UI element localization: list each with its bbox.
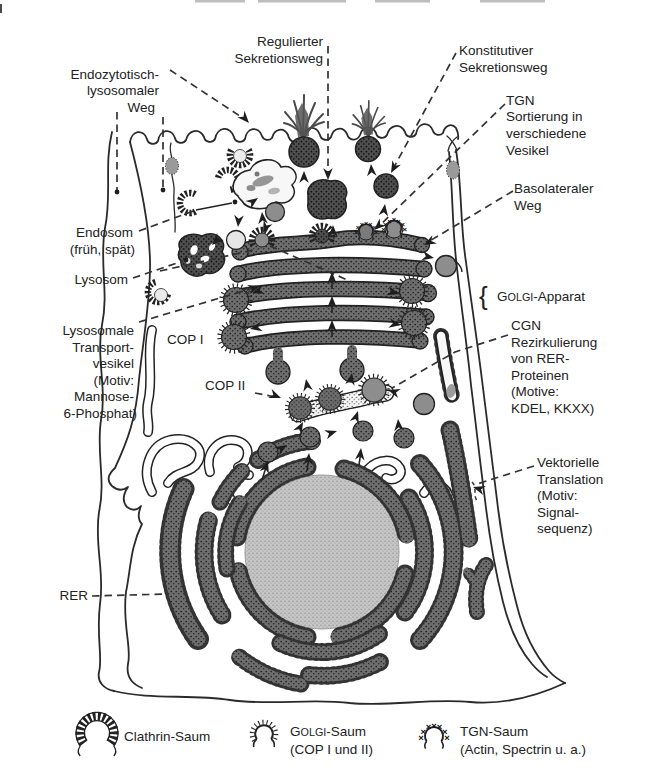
label-line: Proteinen <box>511 368 569 383</box>
smooth-vesicle <box>414 394 435 415</box>
label-golgi-apparatus: GOLGI-Apparat <box>497 289 585 304</box>
label-cop2: COP II <box>205 378 245 393</box>
label-line: TGN <box>506 93 535 108</box>
label-line: Endozytotisch- <box>70 67 159 82</box>
secretory-granules <box>284 95 398 219</box>
membrane-bead <box>447 161 460 179</box>
label-line: Transport- <box>72 340 134 355</box>
label-vectorial-translation: Vektorielle Translation (Motiv: Signal- … <box>537 455 603 536</box>
label-line: (Motive: <box>511 384 559 399</box>
label-line: 6-Phosphat) <box>63 406 137 421</box>
label-line: KDEL, KKXX) <box>511 401 594 416</box>
legend-golgi-label: GOLGI-Saum <box>290 724 366 739</box>
label-line: Mannose- <box>74 389 134 404</box>
label-basolateral-pathway: Basolateraler Weg <box>514 181 594 213</box>
label-line: Sortierung in <box>506 109 583 124</box>
golgi-apparatus <box>226 238 437 385</box>
regulated-granule <box>308 180 347 219</box>
label-lysosomal-transport-vesicles: Lysosomale Transport- vesikel (Motiv: Ma… <box>62 323 137 421</box>
label-regulated-pathway: Regulierter Sekretionsweg <box>234 34 323 66</box>
label-line: Regulierter <box>257 34 324 49</box>
legend-clathrin-label: Clathrin-Saum <box>124 729 210 744</box>
label-line: sequenz) <box>537 521 593 536</box>
cell-diagram-svg: × × × × × × × <box>0 0 663 783</box>
label-endocytic-pathway: Endozytotisch- lysosomaler Weg <box>70 67 159 115</box>
label-line: Weg <box>514 198 542 213</box>
figure-secretory-pathways: × × × × × × × <box>0 0 663 783</box>
label-line: Signal- <box>537 505 579 520</box>
light-vesicle <box>227 231 246 250</box>
label-line: (Motiv: <box>94 373 135 388</box>
label-tgn-sorting: TGN Sortierung in verschiedene Vesikel <box>506 93 586 158</box>
label-cop1: COP I <box>167 332 204 347</box>
nascent-chain-squiggle <box>472 482 478 502</box>
label-line: Basolateraler <box>514 181 594 196</box>
tgn-coat-icon <box>418 720 450 748</box>
label-line: (Motiv: <box>537 488 578 503</box>
endosome-lysosome <box>144 150 296 307</box>
label-line: lysosomaler <box>87 83 160 98</box>
caveola-bead <box>166 158 179 175</box>
label-line: Lysosomale <box>62 323 134 338</box>
label-endosome: Endosom (früh, spät) <box>70 225 135 257</box>
clathrin-coat-icon <box>76 712 118 756</box>
legend: Clathrin-Saum GOLGI-Saum (COP I und II) … <box>76 712 586 757</box>
label-cgn-recycling: CGN Rezirkulierung von RER- Proteinen (M… <box>511 318 597 416</box>
label-line: von RER- <box>511 351 570 366</box>
translating-er-capsule <box>441 336 457 399</box>
label-constitutive-pathway: Konstitutiver Sekretionsweg <box>459 43 548 75</box>
label-lysosome: Lysosom <box>74 272 128 287</box>
label-line: CGN <box>511 318 541 333</box>
legend-tgn-label: TGN-Saum <box>460 724 528 739</box>
label-line: Sekretionsweg <box>459 60 548 75</box>
label-line: Vesikel <box>506 143 549 158</box>
legend-tgn-sub: (Actin, Spectrin u. a.) <box>460 742 586 757</box>
nucleus <box>245 475 399 629</box>
label-line: Sekretionsweg <box>234 51 323 66</box>
golgi-coat-icon <box>252 722 276 747</box>
scan-artifacts <box>0 0 545 13</box>
golgi-brace: { <box>479 281 488 311</box>
label-line: Weg <box>127 100 155 115</box>
label-line: (früh, spät) <box>70 242 135 257</box>
label-rer: RER <box>59 588 88 603</box>
legend-golgi-sub: (COP I und II) <box>290 742 373 757</box>
label-line: Vektorielle <box>537 455 599 470</box>
constitutive-vesicle <box>374 174 398 198</box>
label-line: Konstitutiver <box>459 43 534 58</box>
label-line: verschiedene <box>506 126 586 141</box>
label-line: Rezirkulierung <box>511 335 597 350</box>
label-line: Translation <box>537 472 603 487</box>
carrier-vesicle <box>266 203 285 222</box>
label-line: vesikel <box>93 356 134 371</box>
label-line: Endosom <box>76 225 133 240</box>
